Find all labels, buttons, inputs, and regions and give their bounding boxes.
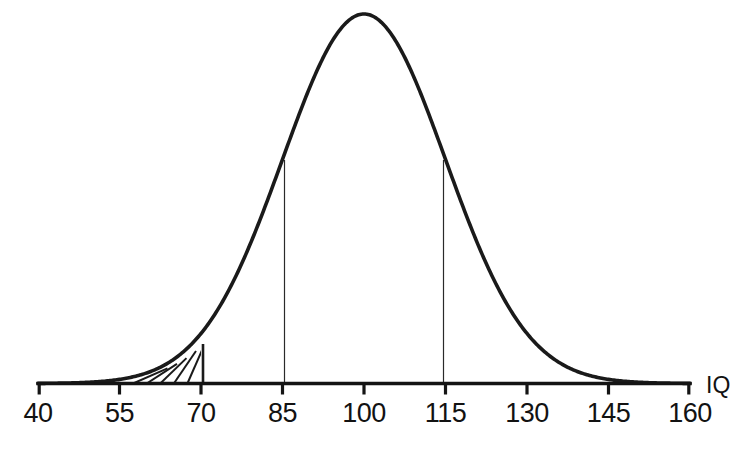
x-axis-tick-label-160: 160: [668, 400, 712, 427]
x-axis-tick-label-130: 130: [505, 400, 549, 427]
x-axis-tick-label-70: 70: [186, 400, 215, 427]
x-axis-title: IQ: [706, 374, 730, 397]
normal-curve-plot: [0, 0, 748, 465]
x-axis-tick-label-40: 40: [23, 400, 52, 427]
iq-distribution-figure: 40557085100115130145160 IQ: [0, 0, 748, 465]
x-axis-tick-label-145: 145: [587, 400, 631, 427]
caption-sliver: [40, 455, 370, 465]
x-axis-tick-label-100: 100: [342, 400, 386, 427]
x-axis-tick-label-115: 115: [425, 400, 467, 427]
x-axis-tick-label-55: 55: [105, 400, 134, 427]
x-axis-tick-label-85: 85: [268, 400, 297, 427]
normal-density-curve: [38, 14, 690, 383]
